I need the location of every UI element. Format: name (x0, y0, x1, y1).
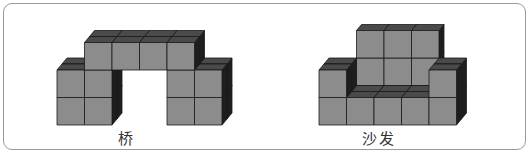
sofa-label: 沙发 (362, 127, 396, 148)
sofa-figure (319, 25, 467, 126)
bridge-label: 桥 (118, 127, 135, 148)
bridge-figure (57, 31, 232, 126)
cube-figures (0, 0, 529, 156)
